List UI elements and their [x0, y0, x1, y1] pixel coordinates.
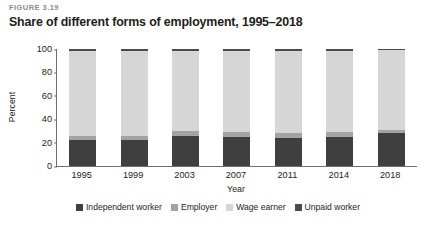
bar-segment	[223, 137, 250, 166]
chart-legend: Independent workerEmployerWage earnerUnp…	[0, 203, 436, 212]
legend-item[interactable]: Unpaid worker	[295, 203, 360, 212]
bar-segment	[275, 138, 302, 166]
bar-segment	[223, 51, 250, 132]
bar-group	[57, 49, 417, 166]
x-tick-label: 2018	[365, 170, 416, 181]
bar-segment	[378, 133, 405, 166]
legend-label: Unpaid worker	[305, 203, 360, 212]
stacked-bar[interactable]	[172, 49, 199, 166]
bar-slot	[211, 49, 262, 166]
legend-item[interactable]: Independent worker	[76, 203, 162, 212]
bar-segment	[378, 50, 405, 130]
stacked-bar[interactable]	[223, 49, 250, 166]
x-tick-label: 2014	[313, 170, 364, 181]
x-tick-label: 2003	[159, 170, 210, 181]
x-tick-label: 1995	[56, 170, 107, 181]
y-tick-label: 60	[42, 91, 57, 100]
bar-segment	[326, 51, 353, 132]
figure-title: Share of different forms of employment, …	[9, 15, 303, 30]
stacked-bar[interactable]	[326, 49, 353, 166]
figure-container: FIGURE 3.19 Share of different forms of …	[0, 0, 436, 232]
stacked-bar[interactable]	[69, 49, 96, 166]
legend-swatch-icon	[226, 204, 233, 211]
x-tick-label: 1999	[107, 170, 158, 181]
plot-area: 020406080100	[56, 49, 417, 167]
legend-swatch-icon	[171, 204, 178, 211]
x-tick-label: 2011	[262, 170, 313, 181]
chart-plot-wrapper: Percent 020406080100 1995199920032007201…	[0, 40, 436, 200]
bar-slot	[314, 49, 365, 166]
legend-swatch-icon	[295, 204, 302, 211]
bar-segment	[172, 51, 199, 131]
x-tick-label: 2007	[210, 170, 261, 181]
bar-slot	[366, 49, 417, 166]
legend-item[interactable]: Employer	[171, 203, 217, 212]
stacked-bar[interactable]	[378, 49, 405, 166]
y-tick-label: 20	[42, 138, 57, 147]
legend-label: Independent worker	[86, 203, 162, 212]
bar-segment	[121, 51, 148, 136]
x-axis-ticks: 1995199920032007201120142018	[56, 170, 416, 181]
y-tick-label: 40	[42, 115, 57, 124]
y-tick-label: 80	[42, 68, 57, 77]
bar-segment	[275, 51, 302, 133]
stacked-bar[interactable]	[121, 49, 148, 166]
y-axis-title: Percent	[7, 77, 17, 137]
legend-label: Wage earner	[236, 203, 285, 212]
bar-segment	[326, 137, 353, 166]
legend-item[interactable]: Wage earner	[226, 203, 285, 212]
bar-segment	[69, 51, 96, 136]
y-tick-label: 100	[37, 45, 57, 54]
bar-segment	[172, 136, 199, 166]
bar-segment	[69, 140, 96, 166]
legend-label: Employer	[181, 203, 217, 212]
stacked-bar[interactable]	[275, 49, 302, 166]
bar-segment	[121, 140, 148, 166]
bar-slot	[108, 49, 159, 166]
legend-swatch-icon	[76, 204, 83, 211]
bar-slot	[57, 49, 108, 166]
bar-slot	[263, 49, 314, 166]
figure-number: FIGURE 3.19	[9, 3, 59, 13]
x-axis-title: Year	[56, 184, 416, 194]
bar-slot	[160, 49, 211, 166]
